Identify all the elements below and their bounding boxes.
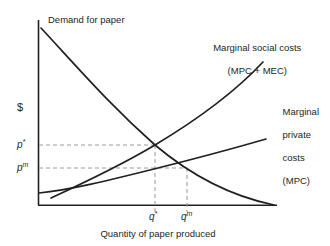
economics-externality-diagram: Demand for paper Marginal social costs (… [0, 0, 330, 246]
y-tick-p-m: pm [17, 161, 28, 173]
marginal-social-cost-label: Marginal social costs (MPC + MEC) [178, 30, 326, 88]
marginal-private-cost-label: Marginal private costs (MPC) [272, 94, 319, 198]
msc-label-line-2: (MPC + MEC) [228, 65, 287, 76]
msc-label-line-1: Marginal social costs [213, 42, 301, 53]
y-tick-p-m-sup: m [23, 161, 29, 168]
mpc-label-line-3: costs [283, 152, 305, 163]
demand-curve-label: Demand for paper [48, 14, 125, 26]
mpc-label-line-4: (MPC) [283, 175, 310, 186]
y-tick-p-star: p* [17, 138, 25, 150]
x-tick-q-m: qm [181, 210, 192, 222]
y-axis-label: $ [17, 101, 23, 113]
y-tick-p-star-sup: * [23, 138, 26, 145]
mpc-label-line-1: Marginal [283, 106, 319, 117]
x-axis-label: Quantity of paper produced [38, 228, 278, 239]
x-tick-q-star-sup: * [155, 210, 158, 217]
x-tick-q-star: q* [149, 210, 157, 222]
mpc-label-line-2: private [283, 129, 312, 140]
x-tick-q-m-sup: m [187, 210, 193, 217]
